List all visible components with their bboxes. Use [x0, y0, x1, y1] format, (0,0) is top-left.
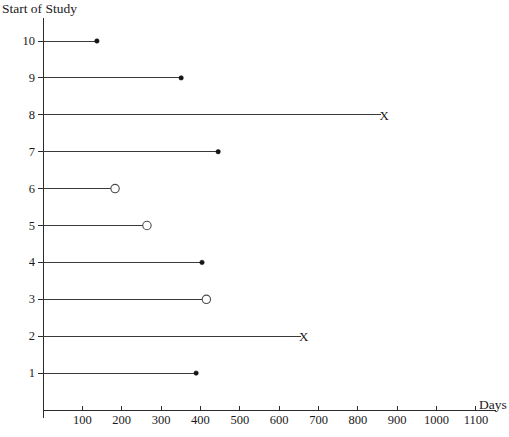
- y-tick-label: 6: [29, 182, 35, 196]
- subject-followup-row: [43, 221, 151, 229]
- x-tick-label: 300: [152, 413, 171, 427]
- subject-followup-lines: XX: [43, 39, 389, 376]
- x-axis-title: Days: [479, 397, 507, 412]
- event-x-marker: X: [379, 108, 389, 123]
- y-axis-ticks: 12345678910: [23, 34, 44, 380]
- event-x-marker: X: [299, 329, 309, 344]
- subject-followup-row: [43, 150, 220, 154]
- y-tick-label: 9: [29, 71, 35, 85]
- x-tick-label: 800: [349, 413, 368, 427]
- event-dot-marker: [200, 260, 204, 264]
- subject-followup-row: [43, 39, 99, 43]
- y-tick-label: 8: [29, 108, 35, 122]
- subject-followup-row: [43, 295, 211, 303]
- y-tick-label: 5: [29, 219, 35, 233]
- y-tick-label: 7: [29, 145, 35, 159]
- subject-followup-row: X: [43, 108, 389, 123]
- subject-followup-row: [43, 371, 198, 375]
- subject-followup-row: [43, 260, 204, 264]
- x-tick-label: 1000: [424, 413, 449, 427]
- x-tick-label: 200: [112, 413, 131, 427]
- x-tick-label: 600: [270, 413, 289, 427]
- y-tick-label: 10: [23, 34, 36, 48]
- subject-followup-row: [43, 184, 119, 192]
- y-tick-label: 3: [29, 292, 35, 306]
- subject-followup-row: [43, 76, 183, 80]
- x-axis-title-group: Days: [479, 397, 507, 412]
- event-dot-marker: [216, 150, 220, 154]
- event-dot-marker: [179, 76, 183, 80]
- y-axis-title-group: Start of Study: [2, 1, 77, 16]
- chart-canvas: Start of Study 12345678910 1002003004005…: [0, 0, 509, 437]
- censored-circle-marker: [111, 184, 119, 192]
- x-tick-label: 100: [73, 413, 92, 427]
- x-tick-label: 400: [191, 413, 210, 427]
- x-tick-label: 1100: [464, 413, 489, 427]
- x-tick-label: 900: [388, 413, 407, 427]
- y-tick-label: 1: [29, 366, 35, 380]
- censored-circle-marker: [202, 295, 210, 303]
- survival-followup-chart: Start of Study 12345678910 1002003004005…: [0, 0, 509, 437]
- y-tick-label: 2: [29, 329, 35, 343]
- x-axis-ticks: 10020030040050060070080090010001100: [43, 405, 488, 427]
- y-axis-title: Start of Study: [2, 1, 77, 16]
- x-tick-label: 700: [309, 413, 328, 427]
- y-tick-label: 4: [29, 255, 36, 269]
- subject-followup-row: X: [43, 329, 309, 344]
- x-tick-label: 500: [230, 413, 249, 427]
- event-dot-marker: [194, 371, 198, 375]
- censored-circle-marker: [143, 221, 151, 229]
- event-dot-marker: [95, 39, 99, 43]
